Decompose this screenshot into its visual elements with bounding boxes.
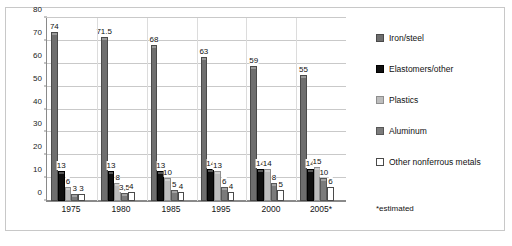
- y-axis-tick-label: 10: [33, 166, 42, 174]
- bar-group: 551415106: [296, 18, 346, 201]
- bar[interactable]: [327, 187, 334, 201]
- y-axis-tick-label: 60: [33, 52, 42, 60]
- bar[interactable]: [65, 187, 72, 201]
- bar-value-label: 8: [272, 173, 276, 182]
- bar-slot: 3: [71, 18, 78, 201]
- bar-group: 59141485: [246, 18, 296, 201]
- legend-label: Iron/steel: [389, 33, 424, 43]
- x-axis-labels: 197519801985199520002005*: [46, 204, 346, 214]
- x-axis-label: 2000: [246, 204, 296, 214]
- bar-slot: 13: [58, 18, 65, 201]
- group-separator: [97, 18, 98, 201]
- legend-item[interactable]: Plastics: [376, 84, 504, 115]
- bar-value-label: 4: [179, 182, 183, 191]
- bar[interactable]: [300, 75, 307, 201]
- bar[interactable]: [250, 66, 257, 201]
- legend-footnote: *estimated: [376, 204, 414, 214]
- bar[interactable]: [178, 192, 185, 201]
- bar-value-label: 5: [279, 180, 283, 189]
- bar[interactable]: [201, 57, 208, 201]
- x-axis-label: 1975: [46, 204, 96, 214]
- bar-slot: 14: [207, 18, 214, 201]
- group-separator: [197, 18, 198, 201]
- bar-slot: 5: [171, 18, 178, 201]
- bar[interactable]: [101, 37, 108, 201]
- bar[interactable]: [78, 194, 85, 201]
- bar[interactable]: [171, 190, 178, 201]
- bar-slot: 8: [271, 18, 278, 201]
- bar-slot: 63: [201, 18, 208, 201]
- plot-inner: 01020304050607080741363371.51383,5468131…: [46, 18, 346, 202]
- bar[interactable]: [214, 171, 221, 201]
- legend-item[interactable]: Elastomers/other: [376, 53, 504, 84]
- bar-slot: 74: [51, 18, 58, 201]
- bar-value-label: 3: [72, 184, 76, 193]
- legend-item[interactable]: Aluminum: [376, 115, 504, 146]
- legend-label: Elastomers/other: [389, 64, 453, 74]
- bar-value-label: 6: [66, 177, 70, 186]
- bar[interactable]: [108, 171, 115, 201]
- bar-group: 63141364: [197, 18, 247, 201]
- group-separator: [296, 18, 297, 201]
- bar[interactable]: [264, 169, 271, 201]
- legend-swatch-icon: [376, 65, 384, 73]
- bar[interactable]: [228, 192, 235, 201]
- legend-label: Plastics: [389, 95, 418, 105]
- bar[interactable]: [307, 169, 314, 201]
- bar[interactable]: [51, 32, 58, 201]
- bar-slot: 6: [65, 18, 72, 201]
- legend-item[interactable]: Iron/steel: [376, 22, 504, 53]
- y-axis-tick-label: 80: [33, 6, 42, 14]
- legend-item[interactable]: Other nonferrous metals: [376, 146, 504, 177]
- bar-value-label: 6: [328, 177, 332, 186]
- bar-slot: 55: [300, 18, 307, 201]
- bar-value-label: 6: [222, 177, 226, 186]
- legend-swatch-icon: [376, 34, 384, 42]
- bar-slot: 6: [327, 18, 334, 201]
- y-axis-tick-label: 0: [38, 189, 42, 197]
- bar[interactable]: [271, 183, 278, 201]
- y-axis-tick-label: 70: [33, 29, 42, 37]
- bar[interactable]: [151, 45, 158, 201]
- bar-slot: 14: [264, 18, 271, 201]
- bar-slot: 13: [214, 18, 221, 201]
- legend-swatch-icon: [376, 158, 384, 166]
- bar-slot: 8: [114, 18, 121, 201]
- group-separator: [246, 18, 247, 201]
- legend-label: Aluminum: [389, 126, 427, 136]
- bar-group: 71.51383,54: [97, 18, 147, 201]
- bar[interactable]: [320, 178, 327, 201]
- bar[interactable]: [257, 169, 264, 201]
- legend-label: Other nonferrous metals: [389, 157, 481, 167]
- bar-slot: 59: [250, 18, 257, 201]
- bar[interactable]: [277, 190, 284, 201]
- bar-value-label: 3: [79, 184, 83, 193]
- bar[interactable]: [221, 187, 228, 201]
- bar-slot: 4: [128, 18, 135, 201]
- chart-legend: Iron/steelElastomers/otherPlasticsAlumin…: [376, 22, 504, 177]
- bar[interactable]: [58, 171, 65, 201]
- bar-value-label: 8: [116, 173, 120, 182]
- bar[interactable]: [128, 192, 135, 201]
- x-axis-label: 1985: [146, 204, 196, 214]
- x-axis-label: 1980: [96, 204, 146, 214]
- x-axis-label: 2005*: [296, 204, 346, 214]
- bar[interactable]: [207, 169, 214, 201]
- bar-slot: 10: [320, 18, 327, 201]
- plot-area: 01020304050607080741363371.51383,5468131…: [46, 18, 346, 202]
- bar-slot: 4: [178, 18, 185, 201]
- legend-swatch-icon: [376, 127, 384, 135]
- chart-figure: 01020304050607080741363371.51383,5468131…: [0, 0, 512, 246]
- y-axis-tick-label: 20: [33, 143, 42, 151]
- bar-slot: 71.5: [101, 18, 108, 201]
- bar[interactable]: [121, 193, 128, 201]
- legend-swatch-icon: [376, 96, 384, 104]
- figure-caption: [6, 238, 506, 246]
- y-axis-tick-label: 30: [33, 120, 42, 128]
- bar[interactable]: [164, 178, 171, 201]
- bar-slot: 68: [151, 18, 158, 201]
- bar[interactable]: [71, 194, 78, 201]
- group-separator: [147, 18, 148, 201]
- bar-slot: 3: [78, 18, 85, 201]
- bar-slot: 10: [164, 18, 171, 201]
